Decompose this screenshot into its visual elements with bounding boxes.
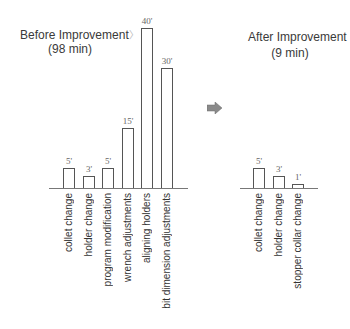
bar xyxy=(273,176,285,188)
bar xyxy=(102,168,114,188)
before-title-text: Before Improvement xyxy=(20,28,129,42)
after-subtitle: (9 min) xyxy=(260,46,320,60)
category-label: wrench adjustments xyxy=(122,193,134,282)
before-title-suffix: 〉 xyxy=(129,30,139,41)
value-label: 1' xyxy=(286,172,310,182)
value-label: 30' xyxy=(155,56,179,66)
right-arrow-icon xyxy=(207,102,223,114)
before-subtitle: (98 min) xyxy=(40,42,100,56)
category-label: stopper collar change xyxy=(292,193,304,289)
category-label: holder change xyxy=(83,193,95,256)
value-label: 15' xyxy=(116,116,140,126)
bar xyxy=(141,28,153,188)
bar xyxy=(83,176,95,188)
category-label: program modification xyxy=(102,193,114,286)
value-label: 40' xyxy=(135,16,159,26)
after-title: After Improvement xyxy=(248,30,347,44)
x-axis-line xyxy=(240,188,318,189)
bar xyxy=(161,68,173,188)
category-label: collet change xyxy=(63,193,75,252)
bar xyxy=(253,168,265,188)
category-label: collet change xyxy=(253,193,265,252)
bar xyxy=(122,128,134,188)
category-label: bit dimension adjustments xyxy=(161,193,173,309)
bar xyxy=(63,168,75,188)
bar xyxy=(292,184,304,188)
value-label: 5' xyxy=(96,156,120,166)
before-title: Before Improvement〉 xyxy=(20,27,139,42)
category-label: holder change xyxy=(273,193,285,256)
category-label: aligning holders xyxy=(141,193,153,263)
x-axis-line xyxy=(49,188,188,189)
